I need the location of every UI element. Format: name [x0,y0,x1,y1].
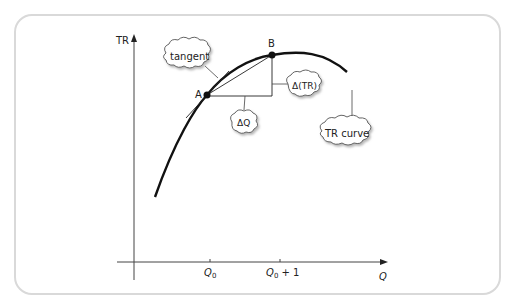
tangent-pointer [205,66,218,78]
q-symbol: Q [266,267,274,278]
callout-tr-curve-text: TR curve [324,128,369,139]
point-b-label: B [268,38,275,49]
x-axis-label: Q [379,271,387,282]
callout-tangent-text: tangent [170,51,209,62]
chord-ab [207,55,272,95]
x-tick-label-q0-plus-1: Q0 + 1 [266,267,299,280]
point-a [204,92,211,99]
point-a-label: A [195,89,202,100]
y-axis-label: TR [115,35,129,46]
point-b [269,52,276,59]
x-tick-label-q0: Q0 [204,267,216,280]
tr-diagram: TR Q Q0 Q0 + 1 A B tangent ΔQ Δ(TR) TR c… [0,0,513,302]
callout-delta-tr-text: Δ(TR) [292,81,317,91]
plus-one: + 1 [278,267,299,278]
axes [117,38,384,280]
callout-delta-q-text: ΔQ [237,118,250,128]
delta-q-pointer [244,96,245,110]
q-symbol: Q [204,267,212,278]
q-subscript: 0 [212,272,216,280]
